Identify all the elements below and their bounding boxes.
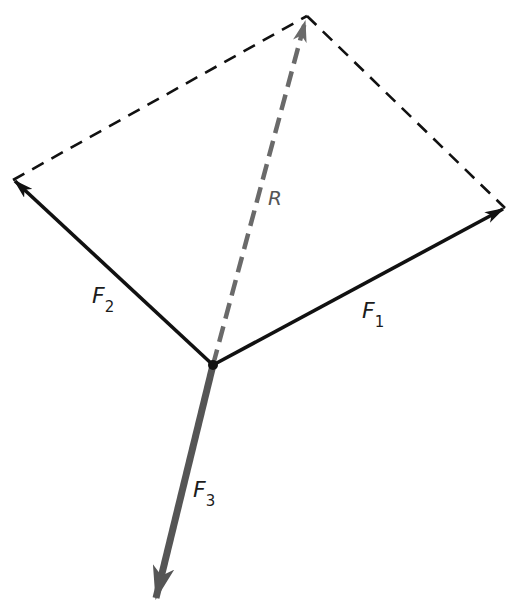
construction-line-left (13, 16, 307, 180)
label-f1: F1 (362, 298, 384, 331)
construction-line-right (307, 16, 505, 208)
force-vector-f1 (213, 209, 503, 365)
label-f2: F2 (92, 283, 114, 316)
label-r: R (268, 186, 282, 210)
resultant-vector-r (213, 22, 305, 365)
force-vector-f2 (15, 181, 213, 365)
origin-point (208, 360, 218, 370)
force-diagram: F1 F2 R F3 (0, 0, 520, 616)
label-f3: F3 (193, 477, 215, 510)
